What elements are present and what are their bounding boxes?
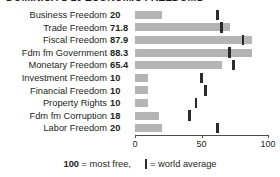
row-label: Property Rights bbox=[0, 97, 107, 109]
score-bar bbox=[135, 86, 148, 94]
economic-freedoms-chart: DOMINICA'S 10 ECONOMIC FREEDOMS Business… bbox=[0, 0, 280, 177]
score-bar bbox=[135, 61, 222, 69]
axis-tick-label: 0 bbox=[132, 139, 137, 149]
chart-row: Business Freedom 20 bbox=[0, 9, 280, 22]
row-label: Fiscal Freedom bbox=[0, 34, 107, 46]
chart-legend: 100 = most free,= world average bbox=[0, 158, 280, 170]
row-value: 10 bbox=[110, 97, 132, 109]
legend-scale-rest: = most free, bbox=[79, 159, 131, 169]
world-average-tick bbox=[216, 10, 218, 20]
row-plot bbox=[135, 59, 280, 72]
row-label: Fdm fm Government bbox=[0, 47, 107, 59]
row-label: Financial Freedom bbox=[0, 85, 107, 97]
chart-row: Property Rights 10 bbox=[0, 97, 280, 110]
row-label: Fdm fm Corruption bbox=[0, 110, 107, 122]
world-average-tick bbox=[216, 123, 218, 133]
axis-tick-label: 50 bbox=[196, 139, 206, 149]
chart-title: DOMINICA'S 10 ECONOMIC FREEDOMS bbox=[6, 0, 276, 3]
score-bar bbox=[135, 99, 148, 107]
world-average-marker-icon bbox=[145, 159, 147, 169]
row-plot bbox=[135, 9, 280, 22]
row-plot bbox=[135, 110, 280, 123]
score-bar bbox=[135, 49, 252, 57]
row-plot bbox=[135, 72, 280, 85]
row-plot bbox=[135, 85, 280, 98]
x-axis: 0 50 100 bbox=[135, 135, 268, 151]
score-bar bbox=[135, 23, 230, 31]
chart-row: Monetary Freedom 65.4 bbox=[0, 59, 280, 72]
chart-row: Fiscal Freedom 87.9 bbox=[0, 34, 280, 47]
chart-row: Fdm fm Corruption 18 bbox=[0, 110, 280, 123]
row-plot bbox=[135, 122, 280, 135]
score-bar bbox=[135, 124, 162, 132]
row-label: Investment Freedom bbox=[0, 72, 107, 84]
row-value: 71.8 bbox=[110, 22, 132, 34]
row-plot bbox=[135, 22, 280, 35]
score-bar bbox=[135, 36, 252, 44]
legend-scale-bold: 100 bbox=[63, 159, 79, 169]
row-label: Business Freedom bbox=[0, 9, 107, 21]
world-average-tick bbox=[228, 47, 230, 57]
chart-row: Fdm fm Government 88.3 bbox=[0, 47, 280, 60]
row-plot bbox=[135, 97, 280, 110]
legend-marker-label: = world average bbox=[150, 159, 216, 169]
world-average-tick bbox=[188, 110, 190, 120]
row-label: Monetary Freedom bbox=[0, 59, 107, 71]
chart-rows: Business Freedom 20 Trade Freedom 71.8 F… bbox=[0, 9, 280, 135]
score-bar bbox=[135, 74, 148, 82]
chart-row: Labor Freedom 20 bbox=[0, 122, 280, 135]
row-value: 65.4 bbox=[110, 59, 132, 71]
row-plot bbox=[135, 34, 280, 47]
row-value: 18 bbox=[110, 110, 132, 122]
row-value: 20 bbox=[110, 122, 132, 134]
row-value: 20 bbox=[110, 9, 132, 21]
world-average-tick bbox=[204, 85, 206, 95]
row-label: Trade Freedom bbox=[0, 22, 107, 34]
row-value: 10 bbox=[110, 72, 132, 84]
chart-row: Investment Freedom 10 bbox=[0, 72, 280, 85]
axis-tick-label: 100 bbox=[260, 139, 275, 149]
world-average-tick bbox=[200, 73, 202, 83]
world-average-tick bbox=[232, 60, 234, 70]
row-plot bbox=[135, 47, 280, 60]
row-value: 10 bbox=[110, 85, 132, 97]
row-value: 88.3 bbox=[110, 47, 132, 59]
row-value: 87.9 bbox=[110, 34, 132, 46]
score-bar bbox=[135, 112, 159, 120]
row-label: Labor Freedom bbox=[0, 122, 107, 134]
world-average-tick bbox=[195, 98, 197, 108]
score-bar bbox=[135, 11, 162, 19]
world-average-tick bbox=[220, 22, 222, 32]
chart-row: Trade Freedom 71.8 bbox=[0, 22, 280, 35]
chart-row: Financial Freedom 10 bbox=[0, 85, 280, 98]
world-average-tick bbox=[242, 35, 244, 45]
